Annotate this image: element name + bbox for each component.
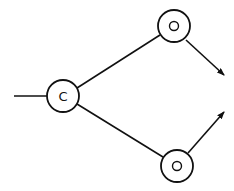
- node-c-label: C: [58, 89, 67, 104]
- node-o-bottom: [161, 150, 193, 182]
- arrow-bottom-output: [188, 112, 224, 153]
- edge-c-to-bottom: [77, 104, 163, 157]
- node-o-top: [158, 10, 190, 42]
- diagram-canvas: C: [0, 0, 234, 191]
- edge-c-to-top: [77, 35, 160, 88]
- arrow-top-output: [186, 40, 224, 75]
- node-c: C: [47, 80, 79, 112]
